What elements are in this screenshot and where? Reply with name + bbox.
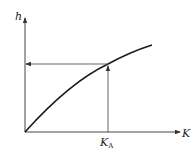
k-a-label: KA	[99, 136, 114, 150]
x-axis-label: K	[181, 127, 191, 140]
diagram-canvas: h K KA	[0, 0, 194, 157]
k-a-label-sub: A	[107, 142, 114, 150]
h-curve	[25, 45, 152, 132]
y-axis-label: h	[15, 10, 22, 23]
